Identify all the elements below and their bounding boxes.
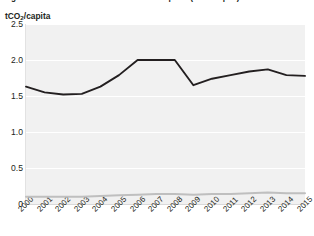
figure-container: Figure 12: CO2 emissions embodied into i… (0, 0, 314, 236)
series-line (26, 192, 305, 196)
series-layer (0, 0, 314, 236)
series-line (26, 60, 305, 95)
